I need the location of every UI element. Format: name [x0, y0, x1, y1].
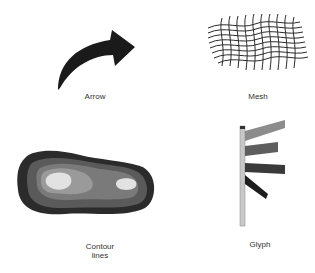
glyph-label: Glyph [235, 240, 285, 249]
glyph-icon [0, 0, 315, 273]
